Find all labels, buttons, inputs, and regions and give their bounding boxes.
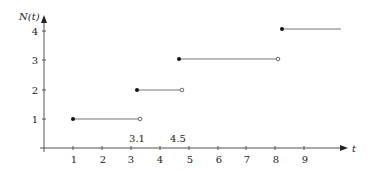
- y-tick-label: 4: [32, 26, 38, 37]
- y-axis-arrow-icon: [41, 15, 47, 23]
- open-point-icon: [276, 57, 280, 61]
- x-tick-label: 8: [273, 154, 279, 165]
- closed-point-icon: [135, 88, 139, 92]
- closed-point-icon: [177, 57, 181, 61]
- x-tick-label: 7: [244, 154, 250, 165]
- step-segment-2: [135, 88, 184, 92]
- closed-point-icon: [280, 27, 284, 31]
- step-segment-1: [71, 117, 142, 121]
- annotation-4-5: 4.5: [170, 133, 186, 144]
- open-point-icon: [138, 117, 142, 121]
- x-axis-arrow-icon: [340, 145, 348, 151]
- x-tick-label: 4: [157, 154, 163, 165]
- annotation-3-1: 3.1: [129, 133, 145, 144]
- step-chart: 1 2 3 4 5 6 7 8 9 1 2 3 4 N(t) t 3.1 4.5: [0, 0, 368, 171]
- x-tick-label: 2: [100, 154, 106, 165]
- x-tick-label: 5: [187, 154, 193, 165]
- y-tick-label: 2: [32, 85, 38, 96]
- y-tick-label: 3: [32, 55, 38, 66]
- closed-point-icon: [71, 117, 75, 121]
- x-tick-label: 6: [216, 154, 222, 165]
- x-tick-label: 3: [128, 154, 134, 165]
- y-tick-label: 1: [32, 114, 38, 125]
- x-tick-label: 1: [71, 154, 77, 165]
- x-tick-label: 9: [302, 154, 308, 165]
- step-segment-3: [177, 57, 280, 61]
- step-segment-4: [280, 27, 341, 31]
- open-point-icon: [180, 88, 184, 92]
- x-axis-title: t: [352, 143, 357, 154]
- y-axis-title: N(t): [18, 11, 40, 22]
